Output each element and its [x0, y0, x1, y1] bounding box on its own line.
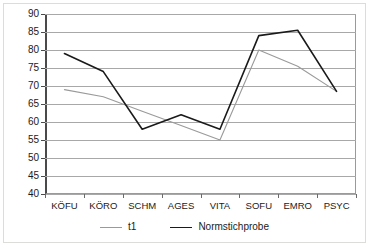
x-axis-tick-mark: [278, 194, 279, 198]
x-axis-category-label: SCHM: [128, 201, 156, 211]
y-axis-tick-label: 85: [28, 27, 39, 37]
legend-label: Normstichprobe: [198, 222, 269, 232]
series-layer: [45, 14, 356, 194]
x-axis-tick-mark: [162, 194, 163, 198]
x-axis-tick-mark: [239, 194, 240, 198]
legend-item-t1[interactable]: t1: [100, 222, 136, 232]
y-axis-tick-label: 60: [28, 117, 39, 127]
x-axis-category-label: KÖRO: [89, 201, 117, 211]
x-axis-tick-mark: [45, 194, 46, 198]
x-axis-category-label: SOFU: [246, 201, 272, 211]
x-axis-category-label: PSYC: [324, 201, 350, 211]
series-line-normstichprobe: [64, 30, 336, 129]
x-axis-tick-mark: [201, 194, 202, 198]
y-axis-tick-label: 65: [28, 99, 39, 109]
x-axis-category-label: EMRO: [283, 201, 312, 211]
legend-line-swatch: [170, 227, 192, 228]
x-axis-category-label: AGES: [168, 201, 194, 211]
y-axis-tick-label: 55: [28, 135, 39, 145]
y-axis-tick-label: 40: [28, 189, 39, 199]
y-axis-tick-label: 75: [28, 63, 39, 73]
y-axis-tick-label: 90: [28, 9, 39, 19]
y-axis-tick-label: 70: [28, 81, 39, 91]
legend-item-normstichprobe[interactable]: Normstichprobe: [170, 222, 269, 232]
chart-legend: t1Normstichprobe: [4, 222, 365, 232]
x-axis-tick-mark: [84, 194, 85, 198]
x-axis-category-label: VITA: [210, 201, 230, 211]
legend-line-swatch: [100, 227, 122, 228]
x-axis-category-label: KÖFU: [51, 201, 77, 211]
series-line-t1: [64, 50, 336, 140]
y-axis-tick-label: 50: [28, 153, 39, 163]
y-axis-tick-label: 80: [28, 45, 39, 55]
x-axis-tick-mark: [356, 194, 357, 198]
y-axis-tick-label: 45: [28, 171, 39, 181]
legend-label: t1: [128, 222, 136, 232]
x-axis-tick-mark: [317, 194, 318, 198]
plot-area: 4045505560657075808590 KÖFUKÖROSCHMAGESV…: [45, 14, 356, 194]
x-axis-tick-mark: [123, 194, 124, 198]
chart-frame: 4045505560657075808590 KÖFUKÖROSCHMAGESV…: [3, 3, 366, 243]
